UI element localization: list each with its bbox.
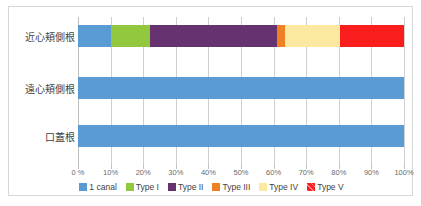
legend-item-type-i[interactable]: Type I	[126, 182, 159, 192]
legend-label: Type III	[222, 182, 250, 192]
tick-label: 90%	[364, 168, 379, 177]
bar-track	[78, 25, 404, 47]
bar-track	[78, 125, 404, 147]
category-label: 口蓋根	[9, 129, 75, 144]
bar-segment-1-canal[interactable]	[78, 77, 404, 99]
bar-segment-type-iv[interactable]	[285, 25, 340, 47]
bar-segment-type-iii[interactable]	[277, 25, 285, 47]
legend-label: Type I	[136, 182, 159, 192]
legend-swatch-icon	[259, 183, 267, 191]
bar-segment-1-canal[interactable]	[78, 125, 404, 147]
tick-label: 60%	[266, 168, 281, 177]
legend-label: Type II	[178, 182, 204, 192]
bar-row	[78, 25, 404, 47]
tick-label: 100%	[394, 168, 413, 177]
plot-area	[78, 17, 404, 165]
bar-row	[78, 125, 404, 147]
legend-swatch-icon	[168, 183, 176, 191]
bar-row	[78, 77, 404, 99]
legend-label: Type V	[317, 182, 343, 192]
tick-label: 80%	[331, 168, 346, 177]
legend-label: Type IV	[269, 182, 298, 192]
legend-swatch-icon	[79, 183, 87, 191]
legend-item-type-ii[interactable]: Type II	[168, 182, 204, 192]
category-label: 近心頬側根	[9, 29, 75, 44]
legend-label: 1 canal	[89, 182, 116, 192]
legend-item-type-v[interactable]: Type V	[307, 182, 343, 192]
bar-segment-type-ii[interactable]	[150, 25, 277, 47]
category-axis: 近心頬側根遠心頬側根口蓋根	[9, 17, 75, 165]
legend-swatch-icon	[212, 183, 220, 191]
tick-label: 10%	[103, 168, 118, 177]
bar-track	[78, 77, 404, 99]
bar-segment-type-v[interactable]	[340, 25, 404, 47]
tick-label: 50%	[233, 168, 248, 177]
bar-segment-1-canal[interactable]	[78, 25, 111, 47]
legend-item-type-iii[interactable]: Type III	[212, 182, 250, 192]
tick-label: 0 %	[72, 168, 85, 177]
category-label: 遠心頬側根	[9, 81, 75, 96]
gridline-100	[404, 17, 405, 165]
legend-swatch-icon	[307, 183, 315, 191]
tick-label: 40%	[201, 168, 216, 177]
tick-label: 70%	[299, 168, 314, 177]
chart-legend: 1 canalType IType IIType IIIType IVType …	[9, 179, 414, 195]
tick-label: 30%	[168, 168, 183, 177]
bar-segment-type-i[interactable]	[111, 25, 150, 47]
tick-label: 20%	[136, 168, 151, 177]
legend-item-1-canal[interactable]: 1 canal	[79, 182, 116, 192]
value-axis: 0 %10%20%30%40%50%60%70%80%90%100%	[78, 165, 404, 179]
chart-frame: 近心頬側根遠心頬側根口蓋根 0 %10%20%30%40%50%60%70%80…	[8, 6, 413, 196]
legend-swatch-icon	[126, 183, 134, 191]
legend-item-type-iv[interactable]: Type IV	[259, 182, 298, 192]
